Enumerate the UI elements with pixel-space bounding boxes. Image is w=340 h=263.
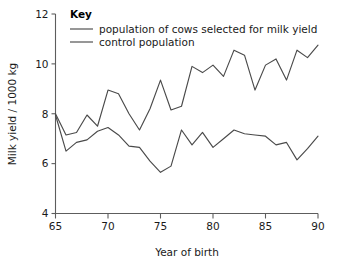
series-line-selected <box>56 45 319 135</box>
x-tick-label: 75 <box>154 220 167 232</box>
y-tick-label: 6 <box>42 157 49 169</box>
legend-label-selected: population of cows selected for milk yie… <box>99 23 317 35</box>
line-chart: 4681012 657075808590 Milk yield / 1000 k… <box>0 0 340 263</box>
x-axis-ticks: 657075808590 <box>49 214 325 232</box>
y-tick-label: 8 <box>42 108 49 120</box>
x-tick-label: 65 <box>49 220 62 232</box>
x-axis-title: Year of birth <box>154 246 219 258</box>
x-tick-label: 80 <box>206 220 219 232</box>
legend-title: Key <box>70 8 92 20</box>
x-tick-label: 90 <box>311 220 324 232</box>
chart-legend: Key population of cows selected for milk… <box>70 8 317 48</box>
chart-container: 4681012 657075808590 Milk yield / 1000 k… <box>0 0 340 263</box>
y-tick-label: 10 <box>35 58 48 70</box>
series-group <box>56 45 319 172</box>
y-tick-label: 4 <box>42 207 49 219</box>
legend-label-control: control population <box>99 36 195 48</box>
y-axis-ticks: 4681012 <box>35 8 55 220</box>
y-axis-title: Milk yield / 1000 kg <box>6 63 18 166</box>
x-tick-label: 70 <box>101 220 114 232</box>
y-tick-label: 12 <box>35 8 48 20</box>
x-tick-label: 85 <box>259 220 272 232</box>
